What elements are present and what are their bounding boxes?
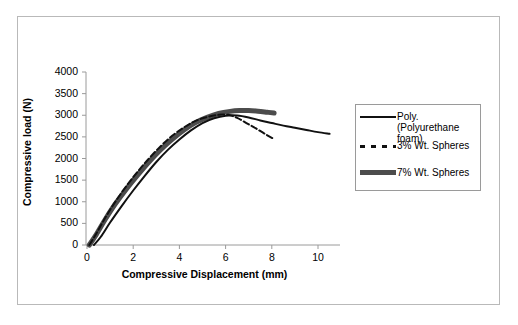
y-tick-label: 0 — [34, 238, 78, 250]
legend-swatch-thick-icon — [360, 167, 396, 179]
legend-label-1: 3% Wt. Spheres — [396, 140, 469, 151]
legend-item-1[interactable]: 3% Wt. Spheres — [360, 140, 478, 152]
series-line-0 — [94, 115, 330, 245]
y-tick-label: 3500 — [34, 87, 78, 99]
x-tick-label: 2 — [113, 251, 153, 263]
y-tick-label: 2000 — [34, 152, 78, 164]
legend-swatch-dashed-icon — [360, 140, 396, 152]
y-tick-label: 1500 — [34, 173, 78, 185]
legend-swatch-solid-icon — [360, 111, 396, 123]
y-tick-label: 4000 — [34, 65, 78, 77]
x-tick-label: 0 — [67, 251, 107, 263]
axis-lines — [86, 72, 340, 245]
x-tick-label: 8 — [252, 251, 292, 263]
legend-item-2[interactable]: 7% Wt. Spheres — [360, 167, 478, 179]
y-axis-title: Compressive load (N) — [21, 87, 33, 217]
data-series-group — [89, 110, 329, 245]
series-line-2 — [89, 110, 274, 245]
chart-figure: 05001000150020002500300035004000 0246810… — [0, 0, 518, 325]
x-tick-label: 4 — [159, 251, 199, 263]
x-tick-label: 10 — [298, 251, 338, 263]
chart-legend: Poly. (Polyurethane foam) 3% Wt. Spheres… — [355, 104, 481, 191]
y-axis-ticks — [82, 72, 86, 245]
y-tick-label: 1000 — [34, 195, 78, 207]
y-tick-label: 3000 — [34, 108, 78, 120]
legend-label-2: 7% Wt. Spheres — [396, 167, 469, 178]
x-tick-label: 6 — [206, 251, 246, 263]
x-axis-title: Compressive Displacement (mm) — [87, 268, 322, 280]
y-tick-label: 500 — [34, 216, 78, 228]
x-axis-ticks — [87, 245, 318, 249]
y-tick-label: 2500 — [34, 130, 78, 142]
